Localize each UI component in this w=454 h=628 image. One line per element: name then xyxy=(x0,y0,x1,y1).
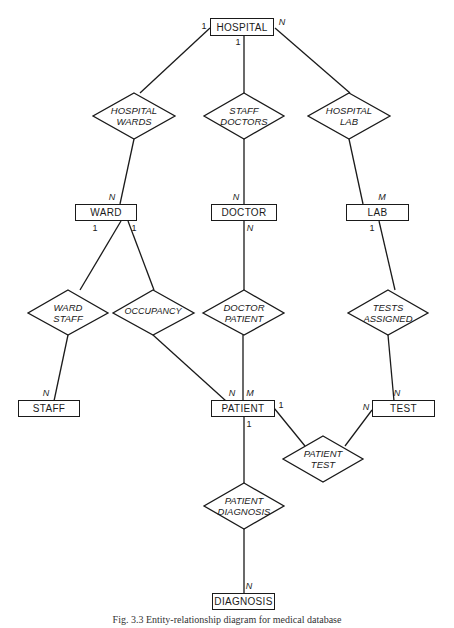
relationship-patient-test: PATIENT TEST xyxy=(304,448,343,470)
card-hospital-right: N xyxy=(279,17,286,27)
relationship-doctor-patient: DOCTOR PATIENT xyxy=(224,302,265,324)
card-patient-top-left: N xyxy=(229,388,236,398)
card-ward-bottom-right: 1 xyxy=(131,223,136,233)
relationship-occupancy: OCCUPANCY xyxy=(125,306,182,317)
relationship-hospital-lab: HOSPITAL LAB xyxy=(326,105,372,127)
entity-diagnosis: DIAGNOSIS xyxy=(212,593,275,610)
relationship-hospital-wards: HOSPITAL WARDS xyxy=(111,105,157,127)
card-test-top: N xyxy=(394,388,401,398)
card-hospital-bottom: 1 xyxy=(235,37,240,47)
card-ward-bottom-left: 1 xyxy=(92,223,97,233)
card-patient-top-right: M xyxy=(246,388,254,398)
relationship-tests-assigned: TESTS ASSIGNED xyxy=(363,302,412,324)
entity-test: TEST xyxy=(372,400,435,417)
entity-ward: WARD xyxy=(75,204,137,221)
card-diagnosis-top: N xyxy=(246,581,253,591)
entity-doctor: DOCTOR xyxy=(211,204,277,221)
card-doctor-bottom: N xyxy=(247,223,254,233)
card-lab-bottom: 1 xyxy=(369,223,374,233)
entity-hospital: HOSPITAL xyxy=(210,18,274,36)
card-lab-top: M xyxy=(378,192,386,202)
card-staff-top: N xyxy=(43,388,50,398)
card-patient-bottom: 1 xyxy=(246,419,251,429)
card-doctor-top: N xyxy=(233,192,240,202)
figure-caption: Fig. 3.3 Entity-relationship diagram for… xyxy=(0,614,454,625)
card-test-left: N xyxy=(363,402,370,412)
entity-staff: STAFF xyxy=(18,400,80,417)
relationship-patient-diagnosis: PATIENT DIAGNOSIS xyxy=(218,495,271,517)
entity-patient: PATIENT xyxy=(211,400,275,417)
relationship-staff-doctors: STAFF DOCTORS xyxy=(220,105,267,127)
card-hospital-left: 1 xyxy=(201,21,206,31)
relationship-ward-staff: WARD STAFF xyxy=(53,302,82,324)
card-patient-right: 1 xyxy=(278,400,283,410)
card-ward-top: N xyxy=(109,192,116,202)
entity-lab: LAB xyxy=(346,204,409,221)
